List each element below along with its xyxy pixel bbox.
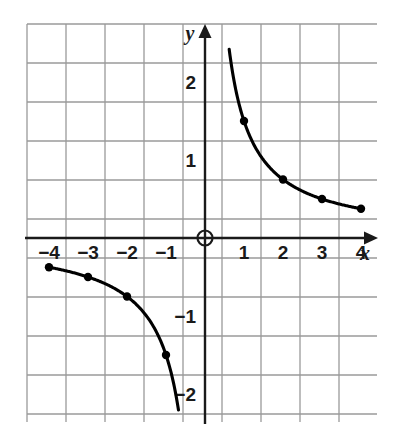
x-tick-label: 1: [239, 242, 250, 263]
data-point-marker: [240, 117, 248, 125]
data-point-marker: [123, 292, 131, 300]
data-point-marker: [318, 195, 326, 203]
data-point-marker: [162, 351, 170, 359]
x-tick-label: −3: [77, 242, 99, 263]
y-tick-label: 2: [185, 72, 196, 93]
y-tick-label: −1: [174, 306, 196, 327]
x-tick-label: 3: [317, 242, 328, 263]
data-point-marker: [45, 263, 53, 271]
x-tick-label: 2: [278, 242, 289, 263]
x-tick-label: −4: [38, 242, 60, 263]
x-tick-label: −2: [116, 242, 138, 263]
y-tick-label: 1: [185, 150, 196, 171]
y-axis-label: y: [184, 22, 195, 45]
data-point-marker: [279, 175, 287, 183]
coordinate-plane-figure: −4−3−2−11234 21−1−2 x y: [0, 0, 397, 447]
x-tick-label: −1: [155, 242, 177, 263]
data-point-marker: [357, 205, 365, 213]
figure-background: [0, 0, 397, 447]
data-point-marker: [84, 273, 92, 281]
graph-canvas: −4−3−2−11234 21−1−2 x y: [0, 0, 397, 447]
x-axis-label: x: [359, 242, 370, 264]
